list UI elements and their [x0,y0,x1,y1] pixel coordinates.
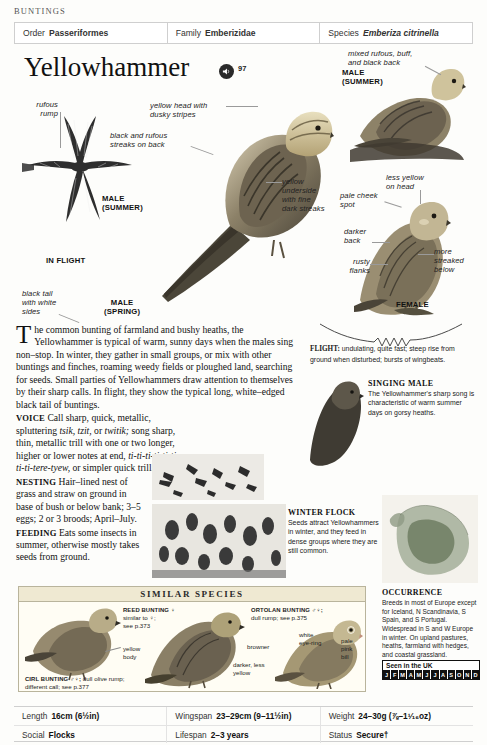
measurements-row-2: Social Flocks Lifespan 2–3 years Status … [14,725,473,743]
reed-callout-darker: darker, less yellow [233,661,281,677]
taxonomy-bar: Order Passeriformes Family Emberizidae S… [14,22,473,44]
measurements-table: Length 16cm (6½in) Wingspan 23–29cm (9–1… [14,706,473,742]
month-jul: J [431,670,439,679]
leader-more-streaked [418,254,434,255]
occurrence-block: OCCURRENCE Breeds in most of Europe exce… [382,588,478,659]
leader-yellow-head [226,106,258,107]
label-more-streaked: more streaked below [434,248,478,275]
data-weight: Weight 24–30g (⅞–1¹⁄₁₆oz) [321,707,473,725]
month-dec: D [472,670,479,679]
data-social-key: Social [22,730,45,740]
taxonomy-species-key: Species [328,28,359,38]
label-mixed-back: mixed rufous, buff, and black back [348,50,434,68]
singing-male-block: SINGING MALE The Yellowhammer's sharp so… [368,379,476,417]
page-title: Yellowhammer [24,52,189,83]
data-social: Social Flocks [14,726,167,743]
month-jun: J [423,670,431,679]
month-jan: J [383,670,391,679]
flight-flock-photo [152,454,264,500]
leader-rufous-rump [60,112,61,148]
ortolan-callout-eye-ring: white eye-ring [299,631,343,647]
ortolan-bunting-name: ORTOLAN BUNTING ♂♀; [251,607,343,614]
intro-paragraph: The common bunting of farmland and bushy… [16,324,304,411]
similar-species-panel: SIMILAR SPECIES yellow body CIRL BUNTING… [18,586,366,692]
leader-darker-back [372,242,390,243]
data-social-value: Flocks [49,730,75,740]
winter-flock-heading: WINTER FLOCK [288,508,380,517]
taxonomy-family-key: Family [176,28,201,38]
data-wingspan-key: Wingspan [175,711,212,721]
audio-track-number: 97 [238,64,246,73]
flight-path-diagram [316,322,466,346]
running-head: BUNTINGS [14,6,66,16]
label-less-yellow: less yellow on head [386,174,440,192]
month-may: M [415,670,423,679]
drop-cap: T [16,324,34,345]
data-status-key: Status [329,730,353,740]
nesting-heading: NESTING [16,477,56,487]
month-mar: M [399,670,407,679]
taxonomy-order: Order Passeriformes [15,23,168,43]
taxonomy-species-value: Emberiza citrinella [363,28,439,38]
data-weight-value: 24–30g (⅞–1¹⁄₁₆oz) [358,711,431,721]
data-length-value: 16cm (6½in) [51,711,99,721]
seen-in-uk-label: Seen in the UK [383,661,479,670]
label-black-tail: black tail with white sides [22,290,74,317]
occurrence-text: Breeds in most of Europe except for Icel… [382,599,478,659]
data-weight-key: Weight [329,711,355,721]
voice-b: or [92,425,105,436]
data-length: Length 16cm (6½in) [14,707,167,725]
voice-call-2: twitik; [104,425,129,436]
winter-flock-text: Seeds attract Yellowhammers in winter, a… [288,518,380,556]
data-status-value: Secure† [356,730,388,740]
singing-male-heading: SINGING MALE [368,379,476,388]
voice-d: or simpler quick trill. [70,462,154,473]
distribution-map [382,495,478,583]
data-lifespan-key: Lifespan [175,730,206,740]
leader-underside [266,182,282,183]
month-aug: A [440,670,448,679]
month-bar: J F M A M J J A S O N D [383,670,479,679]
field-guide-page: BUNTINGS Order Passeriformes Family Embe… [0,0,487,745]
month-sep: S [448,670,456,679]
flight-caption-line: FLIGHT: undulating, quite fast; steep ri… [310,344,476,364]
winter-flock-photo [152,504,286,578]
reed-bunting-illustration [145,611,249,689]
label-darker-back: darker back [344,228,384,246]
caption-male-spring: MALE (SPRING) [104,298,140,316]
feeding-heading: FEEDING [16,528,57,538]
caption-female: FEMALE [396,300,429,309]
similar-species-title: SIMILAR SPECIES [19,587,365,602]
month-feb: F [391,670,399,679]
ortolan-callout-pink-bill: pale pink bill [341,637,365,660]
taxonomy-family: Family Emberizidae [168,23,321,43]
taxonomy-species: Species Emberiza citrinella [320,23,472,43]
leader-rusty-flanks [370,264,388,265]
month-apr: A [407,670,415,679]
flight-label: FLIGHT: [310,345,340,353]
label-black-rufous-streaks: black and rufous streaks on back [110,132,194,150]
cirl-bunting-name: CIRL BUNTING ♂♀; [25,676,81,682]
label-yellow-underside: yellow underside with fine dark streaks [282,178,334,214]
measurements-row-1: Length 16cm (6½in) Wingspan 23–29cm (9–1… [14,707,473,725]
taxonomy-order-key: Order [23,28,45,38]
occurrence-heading: OCCURRENCE [382,588,478,597]
month-oct: O [456,670,464,679]
data-lifespan-value: 2–3 years [211,730,249,740]
cirl-bunting-illustration [25,605,121,681]
label-rufous-rump: rufous rump [16,101,58,119]
data-lifespan: Lifespan 2–3 years [167,726,320,743]
data-wingspan: Wingspan 23–29cm (9–11½in) [167,707,320,725]
data-status: Status Secure† [321,726,473,743]
winter-flock-block: WINTER FLOCK Seeds attract Yellowhammers… [288,508,380,556]
seen-in-uk-box: Seen in the UK J F M A M J J A S O N D [382,660,480,680]
month-nov: N [464,670,472,679]
label-yellow-head: yellow head with dusky stripes [150,102,228,120]
speaker-icon[interactable] [219,64,234,79]
illustration-plate: Yellowhammer 97 [14,46,473,318]
data-length-key: Length [22,711,47,721]
taxonomy-order-value: Passeriformes [49,28,108,38]
caption-in-flight: IN FLIGHT [46,256,85,265]
taxonomy-family-value: Emberizidae [205,28,256,38]
voice-call-1: tsik, tzit, [59,425,91,436]
